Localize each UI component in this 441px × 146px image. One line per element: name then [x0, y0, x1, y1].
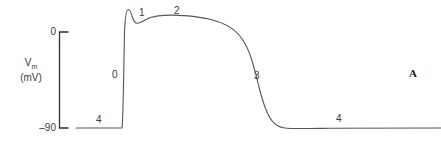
- panel-letter: A: [409, 67, 417, 79]
- phase-1-label: 1: [139, 7, 145, 18]
- y-axis-bracket: [60, 32, 69, 128]
- phase-2-label: 2: [174, 5, 180, 16]
- phase-0-label: 0: [112, 69, 118, 80]
- phase-4-label-right: 4: [336, 113, 342, 124]
- phase-4-label-left: 4: [96, 114, 102, 125]
- cardiac-action-potential-figure: Vm (mV) 0 –90 0 1 2 3 4 4 A: [0, 0, 441, 146]
- plot-area: [0, 0, 441, 146]
- phase-3-label: 3: [254, 70, 260, 81]
